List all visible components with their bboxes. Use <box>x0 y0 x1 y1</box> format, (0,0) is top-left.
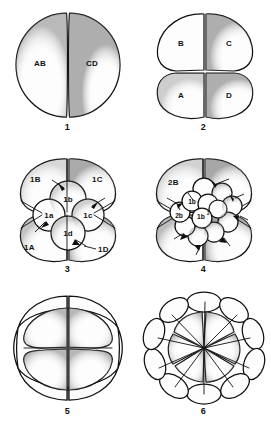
cell-label-1a: 1a <box>44 211 54 220</box>
superscript-2: 2 <box>207 211 210 216</box>
cell-label-CD: CD <box>86 59 98 68</box>
cell-label-1c: 1c <box>83 211 93 220</box>
cell-label-1b: 1b <box>188 198 196 205</box>
cell-label-B: B <box>178 39 184 48</box>
panel-3: 1B 1C 1A 1D 1b 1a 1c 1d 3 <box>0 146 135 287</box>
cell-label-AB: AB <box>34 59 46 68</box>
rim-cell-left <box>14 328 19 368</box>
panel-1-drawing: AB CD <box>0 4 135 124</box>
panel-4-caption: 4 <box>136 264 271 274</box>
cell-label-1C: 1C <box>92 175 103 184</box>
panel-5-caption: 5 <box>0 406 135 416</box>
rim-cell-right <box>118 328 123 368</box>
panel-1: AB CD 1 <box>0 4 135 145</box>
cell-label-D: D <box>226 91 232 100</box>
cell-label-1d: 1d <box>63 229 73 238</box>
cell-label-C: C <box>226 39 232 48</box>
panel-2-caption: 2 <box>136 122 271 132</box>
cell-label-A: A <box>178 91 184 100</box>
panel-5: 5 <box>0 288 135 423</box>
cell-label-1A: 1A <box>24 243 35 252</box>
panel-1-caption: 1 <box>0 122 135 132</box>
panel-3-drawing: 1B 1C 1A 1D 1b 1a 1c 1d <box>0 146 135 266</box>
panel-6-caption: 6 <box>136 406 271 416</box>
cell-label-2b: 2b <box>175 212 183 219</box>
panel-2-drawing: B C A D <box>136 4 271 124</box>
cell-label-2B: 2B <box>168 178 179 187</box>
panel-2: B C A D 2 <box>136 4 271 145</box>
panel-6-drawing <box>136 288 271 408</box>
panel-3-caption: 3 <box>0 264 135 274</box>
cell-label-1B: 1B <box>30 175 41 184</box>
panel-6: 6 <box>136 288 271 423</box>
svg-text:1b: 1b <box>197 213 205 220</box>
illustration-plate: AB CD 1 <box>0 0 271 423</box>
cell-label-1b: 1b <box>63 195 73 204</box>
cell-label-1D: 1D <box>98 245 109 254</box>
panel-5-drawing <box>0 288 135 408</box>
panel-4-drawing: 2B 1b 2b 1b 2 <box>136 146 271 266</box>
panel-4: 2B 1b 2b 1b 2 4 <box>136 146 271 287</box>
